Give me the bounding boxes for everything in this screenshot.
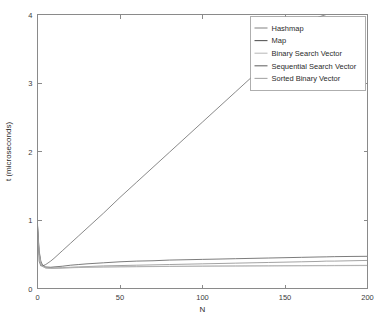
chart-plot: 05010015020001234Nt (microseconds) Hashm… [0,0,386,325]
y-axis-title: t (microseconds) [4,122,13,181]
xticklabel-3: 150 [279,293,292,302]
figure-canvas: 05010015020001234Nt (microseconds) Hashm… [0,0,386,325]
xticklabel-1: 50 [116,293,124,302]
yticklabel-4: 4 [28,11,32,20]
yticklabel-0: 0 [28,285,32,294]
series-line-2 [38,228,368,268]
series-line-0 [38,227,368,268]
xticklabel-0: 0 [35,293,39,302]
series-line-4 [38,230,368,269]
yticklabel-2: 2 [28,148,32,157]
yticklabel-3: 3 [28,79,32,88]
chart-legend[interactable]: HashmapMapBinary Search VectorSequential… [251,17,366,91]
xticklabel-2: 100 [196,293,209,302]
xticklabel-4: 200 [361,293,374,302]
x-axis-title: N [200,305,206,314]
yticklabel-1: 1 [28,216,32,225]
legend-label-0[interactable]: Hashmap [272,24,304,33]
legend-label-3[interactable]: Sequential Search Vector [272,62,357,71]
series-line-1 [38,225,368,267]
legend-label-4[interactable]: Sorted Binary Vector [272,74,341,83]
legend-label-1[interactable]: Map [272,36,287,45]
legend-label-2[interactable]: Binary Search Vector [272,49,343,58]
